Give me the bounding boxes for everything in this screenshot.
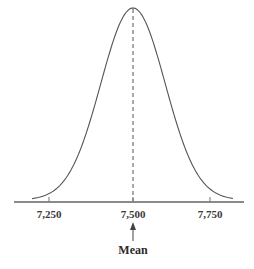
normal-distribution-chart: 7,250 7,500 7,750 Mean [0,0,254,269]
mean-arrow-icon [130,222,136,241]
tick-label-7750: 7,750 [198,208,223,220]
tick-label-7500: 7,500 [121,208,146,220]
tick-label-7250: 7,250 [37,208,62,220]
mean-label: Mean [118,243,148,257]
